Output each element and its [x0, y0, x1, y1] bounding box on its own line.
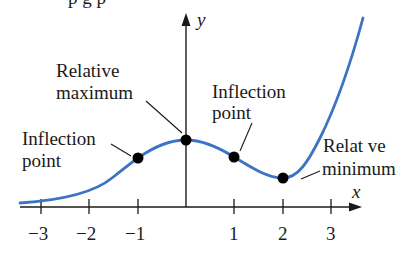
- annotation-inflection-right: Inflection point: [212, 81, 286, 123]
- leader-inflection-right: [240, 123, 252, 151]
- relative-minimum-marker: [278, 173, 289, 184]
- relative-minimum-line1: Relat ve: [323, 135, 386, 156]
- tick-label-neg1: −1: [125, 223, 145, 244]
- relative-maximum-line1: Relative: [56, 60, 119, 81]
- tick-label-1: 1: [229, 223, 239, 244]
- inflection-left-line2: point: [22, 150, 62, 171]
- annotation-relative-minimum: Relat ve minimum: [322, 135, 396, 179]
- leader-relative-minimum: [301, 171, 320, 179]
- function-curve: [20, 18, 363, 203]
- inflection-point-left-marker: [133, 153, 144, 164]
- annotation-inflection-left: Inflection point: [22, 128, 96, 171]
- leader-relative-maximum: [146, 101, 182, 133]
- inflection-left-line1: Inflection: [22, 128, 96, 149]
- y-axis-label: y: [195, 9, 206, 30]
- tick-label-neg2: −2: [76, 223, 96, 244]
- inflection-right-line1: Inflection: [212, 81, 286, 102]
- relative-maximum-line2: maximum: [56, 82, 133, 103]
- inflection-right-line2: point: [212, 102, 252, 123]
- annotation-relative-maximum: Relative maximum: [56, 60, 133, 103]
- x-axis-arrow-icon: [349, 203, 362, 212]
- leader-inflection-left: [111, 144, 131, 156]
- tick-label-2: 2: [278, 223, 288, 244]
- top-cut-text: p g p: [68, 0, 106, 8]
- x-axis-label: x: [351, 181, 361, 202]
- tick-label-neg3: −3: [28, 223, 48, 244]
- inflection-point-right-marker: [229, 152, 240, 163]
- tick-label-3: 3: [326, 223, 336, 244]
- function-graph: p g p x y −3 −2 −1 1 2 3 Relative maximu…: [0, 0, 419, 256]
- relative-maximum-marker: [181, 135, 192, 146]
- y-axis-arrow-icon: [182, 13, 191, 26]
- relative-minimum-line2: minimum: [322, 158, 396, 179]
